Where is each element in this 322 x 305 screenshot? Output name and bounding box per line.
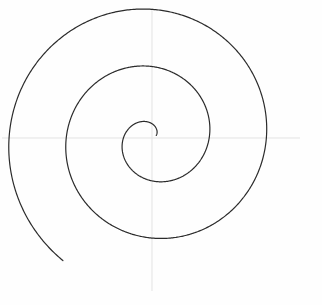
spiral-canvas — [0, 0, 322, 305]
figure-background — [0, 0, 322, 305]
spiral-figure — [0, 0, 322, 305]
